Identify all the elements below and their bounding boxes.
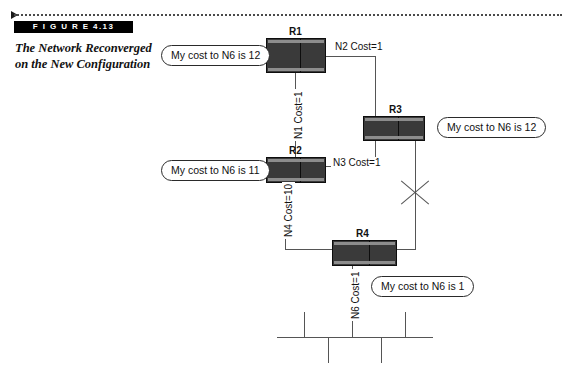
router-bottom-strip [365,136,423,139]
link-label-n2: N2 Cost=1 [333,41,385,52]
router-r4[interactable] [332,240,397,266]
callout-r2: My cost to N6 is 11 [161,160,270,181]
router-label-r2: R2 [289,145,302,156]
link-label-n4: N4 Cost=10 [282,182,295,239]
wire-r4-right-stub [396,249,416,250]
router-r2[interactable] [266,157,326,183]
figure-page: F I G U R E 4.13 The Network Reconverged… [0,0,567,380]
router-top-strip [268,159,324,162]
bus-n6 [277,337,433,338]
link-label-n1: N1 Cost=1 [292,89,305,141]
callout-r4: My cost to N6 is 1 [371,276,474,297]
network-diagram: R1 R2 R3 R4 N2 Cost=1 N1 Cost=1 N3 Cost=… [0,0,567,380]
bus-stub-up-1 [304,312,305,337]
x-cross-icon [400,178,430,208]
router-bottom-strip [268,68,324,71]
router-label-r4: R4 [356,228,369,239]
router-bottom-strip [334,261,395,264]
router-label-r3: R3 [389,104,402,115]
wire-r1-to-n2 [325,56,376,57]
router-bottom-strip [268,178,324,181]
bus-stub-down-2 [381,337,382,363]
bus-stub-down-1 [328,337,329,363]
link-label-n3: N3 Cost=1 [331,157,383,168]
bus-stub-up-2 [405,312,406,337]
router-label-r1: R1 [289,26,302,37]
router-top-strip [334,242,395,245]
wire-n4-to-r4 [285,249,333,250]
router-r1[interactable] [266,38,326,73]
router-top-strip [365,118,423,121]
callout-r1: My cost to N6 is 12 [161,45,270,66]
callout-r3: My cost to N6 is 12 [437,117,546,138]
router-r3[interactable] [363,116,425,141]
router-top-strip [268,40,324,43]
wire-n2-down-to-r3 [375,56,376,117]
link-label-n6: N6 Cost=1 [349,269,362,321]
